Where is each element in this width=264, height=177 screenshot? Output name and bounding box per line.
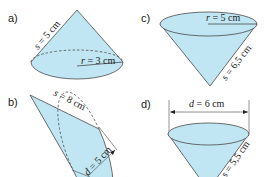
figure-a: a) r = 3 cm s = 5 cm bbox=[8, 10, 123, 79]
cone-a-radius-label: r = 3 cm bbox=[81, 55, 115, 66]
figure-c-label: c) bbox=[141, 12, 150, 24]
figure-c: c) r = 5 cm s = 6,5 cm bbox=[141, 12, 257, 86]
cone-d-diameter-label: d = 6 cm bbox=[189, 98, 225, 109]
figure-a-label: a) bbox=[8, 12, 18, 24]
cone-d-arrow-left-icon bbox=[170, 110, 175, 114]
figure-d: d) d = 6 cm s = 5,5 cm bbox=[141, 98, 252, 177]
figure-b: b) s = 8 cm d = 5 cm bbox=[8, 87, 117, 177]
cone-c-radius-label: r = 5 cm bbox=[206, 12, 240, 23]
figure-d-label: d) bbox=[141, 98, 151, 110]
cones-diagram: a) r = 3 cm s = 5 cm c) r = 5 cm s = 6,5… bbox=[0, 0, 264, 177]
cone-d-base bbox=[168, 123, 249, 145]
figure-b-label: b) bbox=[8, 96, 18, 108]
cone-d-arrow-right-icon bbox=[243, 110, 248, 114]
